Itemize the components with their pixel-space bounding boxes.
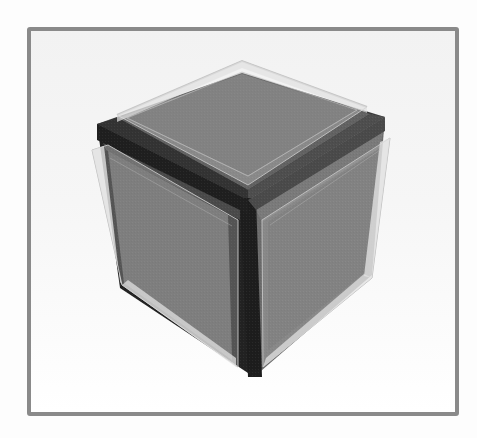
figure-canvas bbox=[0, 0, 477, 438]
cube-diagram bbox=[0, 0, 477, 438]
